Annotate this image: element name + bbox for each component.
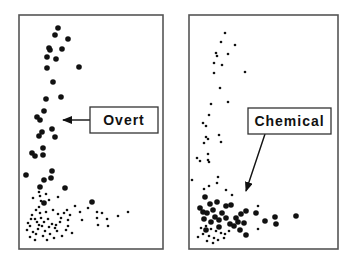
data-point <box>52 134 58 140</box>
data-point <box>35 233 38 236</box>
data-point <box>34 239 37 242</box>
data-point <box>207 138 210 141</box>
panel-chemical: Chemical <box>189 15 338 249</box>
data-point <box>257 205 260 208</box>
data-point <box>221 64 224 67</box>
data-point <box>58 94 64 100</box>
data-point <box>216 224 222 230</box>
data-point <box>43 96 49 102</box>
data-point <box>205 125 208 128</box>
data-point <box>47 47 53 53</box>
data-point <box>208 185 211 188</box>
data-point <box>67 219 70 222</box>
data-point <box>29 225 32 228</box>
data-point <box>59 221 62 224</box>
data-point <box>79 211 82 214</box>
data-point <box>96 217 99 220</box>
data-point <box>55 224 58 227</box>
data-point <box>228 230 231 233</box>
data-point <box>216 55 219 58</box>
data-point <box>202 194 208 200</box>
data-point <box>210 228 213 231</box>
data-point <box>36 133 42 139</box>
data-point <box>216 182 219 185</box>
data-point <box>51 223 54 226</box>
data-point <box>41 177 47 183</box>
data-point <box>231 223 237 229</box>
data-point <box>203 227 209 233</box>
data-point <box>243 208 249 214</box>
data-point <box>199 160 202 163</box>
data-point <box>60 217 63 220</box>
data-point <box>253 210 259 216</box>
data-point <box>214 199 220 205</box>
data-point <box>49 168 55 174</box>
data-point <box>62 185 68 191</box>
data-point <box>46 239 49 242</box>
data-point <box>59 46 65 52</box>
data-point <box>48 199 51 202</box>
data-point <box>56 230 59 233</box>
data-point <box>210 207 216 213</box>
data-point <box>231 194 234 197</box>
data-point <box>42 235 45 238</box>
data-point <box>201 216 207 222</box>
data-point <box>41 225 44 228</box>
data-point <box>96 211 99 214</box>
data-point <box>227 53 230 56</box>
data-point <box>31 214 34 217</box>
data-point <box>117 215 120 218</box>
data-point <box>223 237 226 240</box>
data-point <box>55 25 61 31</box>
data-point <box>293 213 299 219</box>
data-point <box>35 209 38 212</box>
data-point <box>67 225 70 228</box>
data-point <box>217 176 220 179</box>
data-point <box>197 236 200 239</box>
data-point <box>52 209 55 212</box>
data-point <box>48 226 51 229</box>
data-point <box>127 211 130 214</box>
data-point <box>39 212 42 215</box>
data-point <box>44 65 50 71</box>
data-point <box>257 228 260 231</box>
data-point <box>41 108 47 114</box>
data-point <box>53 237 56 240</box>
data-point <box>219 210 225 216</box>
data-point <box>50 79 56 85</box>
data-point <box>27 222 30 225</box>
data-point <box>39 195 42 198</box>
data-point <box>37 117 43 123</box>
data-point <box>38 224 41 227</box>
data-point <box>207 153 210 156</box>
data-point <box>57 213 60 216</box>
figure-canvas: Overt Chemical <box>0 0 352 261</box>
data-point <box>34 218 37 221</box>
data-point <box>38 206 41 209</box>
data-point <box>273 221 279 227</box>
data-point <box>215 230 218 233</box>
data-point <box>202 233 205 236</box>
data-point <box>220 232 223 235</box>
data-point <box>69 214 72 217</box>
data-point <box>208 219 214 225</box>
data-point <box>74 205 77 208</box>
data-point <box>43 221 46 224</box>
data-point <box>63 212 66 215</box>
data-point <box>212 242 215 245</box>
data-point <box>208 235 211 238</box>
data-point <box>32 231 35 234</box>
data-point <box>53 56 59 62</box>
data-point <box>40 200 43 203</box>
data-point <box>218 134 221 137</box>
data-point <box>49 126 55 132</box>
data-point <box>89 199 95 205</box>
data-point <box>206 240 209 243</box>
data-point <box>237 227 243 233</box>
data-point <box>217 239 220 242</box>
data-point <box>61 235 64 238</box>
data-point <box>66 209 69 212</box>
data-point <box>65 229 68 232</box>
data-point <box>227 101 230 104</box>
data-point <box>44 230 47 233</box>
